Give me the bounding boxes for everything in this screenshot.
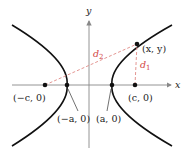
label-pos-a: (a, 0): [96, 113, 121, 124]
label-neg-c: (−c, 0): [13, 92, 46, 103]
point-neg-a: [65, 83, 70, 88]
hyperbola-diagram: x y d2 d1 (−c, 0) (−a, 0) (a, 0) (c, 0) …: [0, 0, 186, 153]
y-axis-label: y: [85, 5, 92, 16]
x-axis-label: x: [175, 79, 181, 90]
label-neg-a: (−a, 0): [57, 113, 90, 124]
point-pos-c: [133, 83, 138, 88]
label-pos-c: (c, 0): [128, 92, 153, 103]
neg-a-leader: [68, 89, 78, 111]
left-branch: [12, 25, 67, 146]
point-neg-c: [43, 83, 48, 88]
label-xy: (x, y): [142, 43, 166, 54]
point-xy: [135, 42, 140, 47]
point-pos-a: [110, 83, 115, 88]
d2-line: [45, 44, 137, 85]
d1-label: d1: [140, 59, 151, 72]
d2-label: d2: [93, 48, 104, 61]
pos-a-leader: [107, 89, 111, 111]
d1-line: [135, 44, 137, 85]
